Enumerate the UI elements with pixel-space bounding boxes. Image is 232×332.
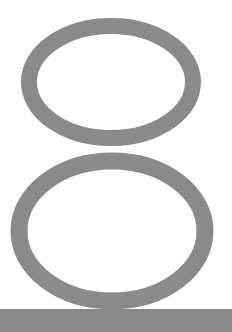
numeral-eight-graphic: 8 [0, 0, 232, 332]
eight-svg [0, 0, 232, 332]
base-bar [0, 309, 232, 332]
